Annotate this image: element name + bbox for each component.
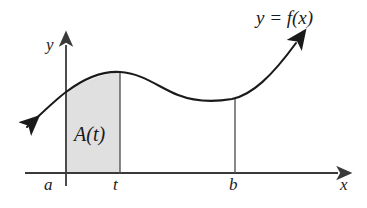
curve-equation-label: y = f(x) bbox=[256, 8, 313, 27]
x-axis-label: x bbox=[340, 176, 348, 193]
diagram-canvas bbox=[0, 0, 367, 208]
x-tick-label-t: t bbox=[113, 176, 118, 193]
y-axis-label: y bbox=[46, 36, 54, 53]
area-function-label: A(t) bbox=[74, 124, 105, 144]
x-tick-label-b: b bbox=[229, 176, 238, 193]
area-function-diagram: y x a t b A(t) y = f(x) bbox=[0, 0, 367, 208]
x-tick-label-a: a bbox=[44, 176, 53, 193]
